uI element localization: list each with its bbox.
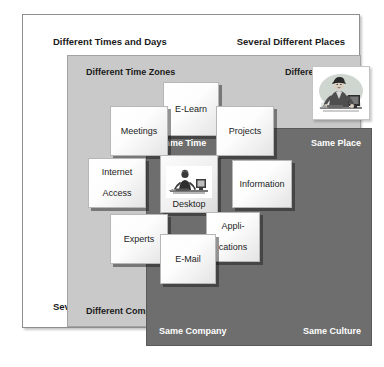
inner-label-bottom-right: Same Culture: [303, 327, 361, 336]
tile-projects[interactable]: Projects: [216, 106, 274, 156]
tile-label-meetings: Meetings: [119, 126, 160, 136]
tile-information[interactable]: Information: [232, 160, 292, 208]
person-at-computer-icon: [315, 69, 367, 117]
tile-label-internet-access: Internet Access: [98, 167, 137, 198]
outer-label-top-right: Several Different Places: [237, 37, 345, 47]
tile-label-information: Information: [237, 179, 286, 189]
tile-label-applications: Appli- cations: [215, 221, 252, 252]
tile-label-e-learn: E-Learn: [173, 104, 209, 114]
diagram-canvas: Different Times and Days Several Differe…: [0, 0, 384, 367]
tile-internet-access[interactable]: Internet Access: [88, 158, 146, 208]
tile-desktop[interactable]: Desktop: [160, 155, 218, 213]
tile-e-mail[interactable]: E-Mail: [160, 234, 216, 284]
outer-label-top-left: Different Times and Days: [53, 37, 167, 47]
person-at-desk-icon: [166, 166, 212, 198]
inner-label-bottom-left: Same Company: [159, 327, 227, 336]
person-at-computer-card: [312, 66, 370, 120]
middle-label-top-left: Different Time Zones: [86, 68, 175, 77]
tile-label-internet-line1: Internet: [100, 167, 135, 177]
tile-meetings[interactable]: Meetings: [110, 106, 168, 156]
tile-label-projects: Projects: [227, 126, 264, 136]
tile-label-desktop: Desktop: [170, 199, 207, 209]
tile-label-experts: Experts: [122, 234, 157, 244]
tile-label-e-mail: E-Mail: [173, 254, 203, 264]
tile-label-internet-line2: Access: [100, 188, 135, 198]
inner-label-top-right: Same Place: [311, 139, 361, 148]
tile-label-applications-line2: cations: [217, 242, 250, 252]
tile-label-applications-line1: Appli-: [217, 221, 250, 231]
tile-e-learn[interactable]: E-Learn: [163, 82, 219, 136]
